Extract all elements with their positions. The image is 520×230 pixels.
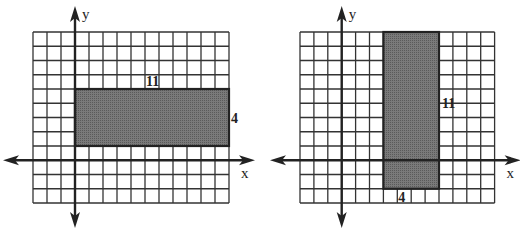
height-label: 11 <box>442 96 455 111</box>
height-label: 4 <box>231 111 238 126</box>
left-coordinate-grid: yx114 <box>3 6 255 228</box>
y-axis-label: y <box>349 6 357 22</box>
x-axis-label: x <box>507 165 515 181</box>
y-axis-label: y <box>82 6 90 22</box>
width-label: 4 <box>398 190 405 205</box>
width-label: 11 <box>146 74 159 89</box>
diagram-canvas: yx114 yx411 <box>0 0 520 230</box>
shaded-rectangle <box>383 32 439 189</box>
right-coordinate-grid: yx411 <box>270 6 520 228</box>
shaded-rectangle <box>75 89 229 146</box>
x-axis-label: x <box>241 165 249 181</box>
